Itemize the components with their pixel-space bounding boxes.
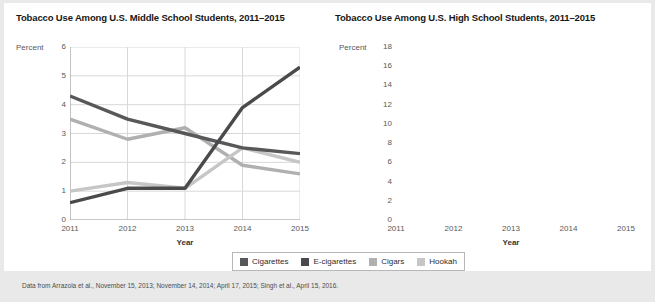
y-axis-tick-label: 16 xyxy=(374,62,392,70)
page-root: Tobacco Use Among U.S. Middle School Stu… xyxy=(0,0,655,302)
x-axis-tick-label: 2012 xyxy=(437,224,471,233)
figure-card: Tobacco Use Among U.S. Middle School Stu… xyxy=(4,3,651,271)
legend-item-label: Cigars xyxy=(381,257,404,266)
x-axis-tick-label: 2015 xyxy=(283,224,317,233)
y-axis-tick-label: 3 xyxy=(48,130,66,138)
y-axis-tick-label: 2 xyxy=(48,158,66,166)
x-axis-tick-label: 2011 xyxy=(53,224,87,233)
y-axis-tick-label: 0 xyxy=(48,216,66,224)
legend-item: Cigarettes xyxy=(240,257,288,266)
legend-item-label: E-cigarettes xyxy=(313,257,356,266)
legend-swatch-icon xyxy=(369,258,377,266)
legend-item: E-cigarettes xyxy=(301,257,356,266)
legend-swatch-icon xyxy=(240,258,248,266)
y-axis-tick-label: 6 xyxy=(48,43,66,51)
y-axis-tick-label: 0 xyxy=(374,216,392,224)
y-axis-tick-label: 4 xyxy=(374,178,392,186)
chart-panel-middle-school: Tobacco Use Among U.S. Middle School Stu… xyxy=(4,3,327,243)
chart-panel-high-school: Tobacco Use Among U.S. High School Stude… xyxy=(327,3,650,243)
y-axis-tick-label: 1 xyxy=(48,187,66,195)
plot-svg-middle-school xyxy=(70,47,300,220)
legend-swatch-icon xyxy=(301,258,309,266)
x-axis-label-middle-school: Year xyxy=(155,238,215,247)
y-axis-tick-label: 6 xyxy=(374,158,392,166)
legend-item-label: Hookah xyxy=(429,257,457,266)
x-axis-tick-label: 2014 xyxy=(552,224,586,233)
chart-title-high-school: Tobacco Use Among U.S. High School Stude… xyxy=(335,12,595,23)
plot-area-middle-school xyxy=(70,47,300,220)
chart-legend: CigarettesE-cigarettesCigarsHookah xyxy=(232,252,465,271)
x-axis-tick-label: 2011 xyxy=(379,224,413,233)
x-axis-label-high-school: Year xyxy=(481,238,541,247)
y-axis-tick-label: 8 xyxy=(374,139,392,147)
legend-item: Cigars xyxy=(369,257,404,266)
y-axis-tick-label: 4 xyxy=(48,101,66,109)
figure-source-note: Data from Arrazola et al., November 15, … xyxy=(22,282,338,289)
charts-container: Tobacco Use Among U.S. Middle School Stu… xyxy=(4,3,651,243)
y-axis-label-high-school: Percent xyxy=(339,43,367,52)
x-axis-tick-label: 2013 xyxy=(168,224,202,233)
y-axis-tick-label: 10 xyxy=(374,120,392,128)
y-axis-tick-label: 14 xyxy=(374,81,392,89)
legend-item: Hookah xyxy=(417,257,457,266)
legend-swatch-icon xyxy=(417,258,425,266)
x-axis-tick-label: 2014 xyxy=(226,224,260,233)
y-axis-tick-label: 12 xyxy=(374,101,392,109)
x-axis-tick-label: 2012 xyxy=(111,224,145,233)
y-axis-tick-label: 5 xyxy=(48,72,66,80)
legend-item-label: Cigarettes xyxy=(252,257,288,266)
chart-title-middle-school: Tobacco Use Among U.S. Middle School Stu… xyxy=(16,12,285,23)
y-axis-tick-label: 2 xyxy=(374,197,392,205)
x-axis-tick-label: 2013 xyxy=(494,224,528,233)
y-axis-tick-label: 18 xyxy=(374,43,392,51)
x-axis-tick-label: 2015 xyxy=(609,224,643,233)
y-axis-label-middle-school: Percent xyxy=(16,43,44,52)
